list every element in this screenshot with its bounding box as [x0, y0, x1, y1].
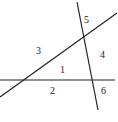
angle-label-6: 6: [101, 85, 106, 96]
angle-label-2: 2: [50, 85, 55, 96]
diagram: 1 2 3 4 5 6: [0, 0, 118, 122]
angle-label-5: 5: [84, 14, 89, 25]
diagram-svg: 1 2 3 4 5 6: [0, 0, 118, 122]
angle-label-3: 3: [36, 45, 41, 56]
angle-label-1: 1: [60, 64, 65, 75]
angle-label-4: 4: [100, 49, 105, 60]
